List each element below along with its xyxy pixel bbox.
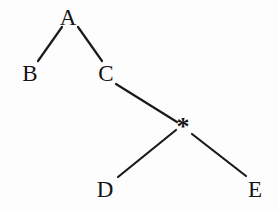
- tree-edges-layer: [0, 0, 278, 211]
- tree-node-e[interactable]: E: [248, 178, 262, 201]
- tree-edge: [116, 84, 177, 122]
- tree-edge: [78, 27, 102, 61]
- tree-edge: [118, 130, 176, 177]
- tree-node-star[interactable]: *: [177, 114, 190, 140]
- tree-node-label: A: [60, 5, 77, 30]
- tree-diagram: ABC*DE: [0, 0, 278, 211]
- tree-node-label: B: [22, 61, 37, 86]
- tree-node-d[interactable]: D: [97, 178, 114, 201]
- tree-node-label: D: [97, 177, 114, 202]
- tree-node-label: E: [248, 177, 262, 202]
- tree-node-c[interactable]: C: [98, 62, 113, 85]
- tree-node-b[interactable]: B: [22, 62, 37, 85]
- tree-edge: [192, 134, 246, 176]
- tree-node-a[interactable]: A: [60, 6, 77, 29]
- tree-node-label: *: [177, 112, 190, 141]
- tree-node-label: C: [98, 61, 113, 86]
- tree-edge: [38, 27, 62, 61]
